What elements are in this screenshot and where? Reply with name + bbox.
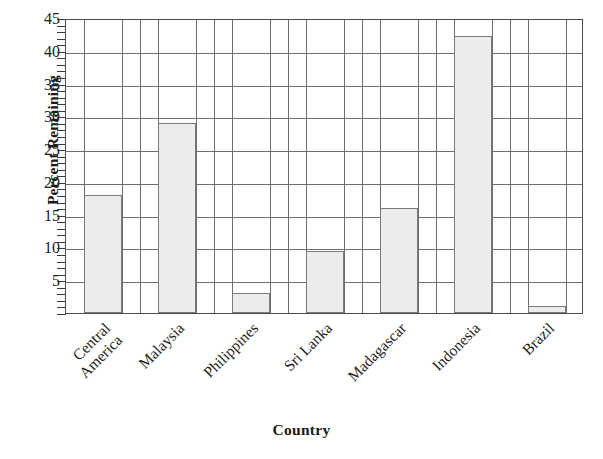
horizontal-gridline [66, 151, 582, 152]
vertical-gridline [344, 20, 345, 313]
vertical-gridline [566, 20, 567, 313]
bar[interactable] [454, 36, 492, 313]
horizontal-gridline [66, 184, 582, 185]
y-tick-label: 30 [30, 109, 60, 125]
vertical-gridline [510, 20, 511, 313]
vertical-gridline [528, 20, 529, 313]
bar[interactable] [158, 123, 196, 313]
horizontal-gridline [66, 86, 582, 87]
y-tick-label: 35 [30, 77, 60, 93]
vertical-gridline [362, 20, 363, 313]
y-axis-tick-labels: 51015202530354045 [30, 0, 60, 320]
bar[interactable] [380, 208, 418, 313]
bar-chart-figure: Percent Remaining 51015202530354045 Cent… [0, 0, 603, 459]
plot-area [65, 19, 583, 314]
y-tick-label: 5 [30, 273, 60, 289]
bar[interactable] [528, 306, 566, 313]
vertical-gridline [140, 20, 141, 313]
vertical-gridline [214, 20, 215, 313]
x-axis-title: Country [0, 421, 603, 439]
vertical-gridline [492, 20, 493, 313]
bar[interactable] [232, 293, 270, 313]
y-tick-label: 15 [30, 208, 60, 224]
vertical-gridline [436, 20, 437, 313]
bar[interactable] [306, 251, 344, 313]
bar[interactable] [84, 195, 122, 313]
y-minor-tick [57, 314, 66, 315]
y-tick-label: 10 [30, 240, 60, 256]
vertical-gridline [418, 20, 419, 313]
y-tick-label: 20 [30, 175, 60, 191]
vertical-gridline [196, 20, 197, 313]
y-tick-label: 45 [30, 11, 60, 27]
horizontal-gridline [66, 118, 582, 119]
vertical-gridline [288, 20, 289, 313]
vertical-gridline [232, 20, 233, 313]
vertical-gridline [270, 20, 271, 313]
y-tick-label: 25 [30, 142, 60, 158]
horizontal-gridline [66, 217, 582, 218]
vertical-gridline [122, 20, 123, 313]
y-tick-label: 40 [30, 44, 60, 60]
horizontal-gridline [66, 53, 582, 54]
